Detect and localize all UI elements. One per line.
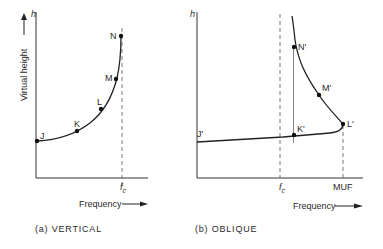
y-axis-label: Virtual height <box>19 49 29 101</box>
y-axis-symbol: h <box>31 10 36 19</box>
label-n: N <box>110 32 117 41</box>
caption-oblique: (b) OBLIQUE <box>195 224 257 234</box>
fc-label: fc <box>120 183 126 194</box>
x-axis-label: Frequency <box>79 200 122 209</box>
x-axis-label: Frequency <box>293 202 336 211</box>
point-n <box>119 34 123 38</box>
caption-vertical: (a) VERTICAL <box>35 224 102 234</box>
label-m-prime: M' <box>322 84 331 93</box>
point-l-prime <box>341 122 345 126</box>
fc-label: fc <box>279 183 285 194</box>
point-n-prime <box>292 45 296 49</box>
label-l-prime: L' <box>347 120 354 129</box>
label-k: K <box>74 120 80 129</box>
x-arrow-head-icon <box>140 202 148 207</box>
x-arrow-head-icon <box>354 204 363 209</box>
point-m <box>114 77 118 81</box>
label-k-prime: K' <box>297 125 305 134</box>
y-arrow-head-icon <box>21 13 27 20</box>
point-j <box>35 139 39 143</box>
y-axis-symbol: h <box>190 10 195 19</box>
label-m: M <box>105 74 113 83</box>
label-l: L <box>97 98 102 107</box>
point-k <box>75 129 79 133</box>
panel-vertical <box>21 12 148 207</box>
muf-label: MUF <box>333 183 353 192</box>
oblique-curve <box>197 16 343 142</box>
panel-oblique <box>197 12 363 209</box>
label-n-prime: N' <box>298 43 306 52</box>
diagram-canvas <box>0 0 383 249</box>
point-k-prime <box>292 133 296 137</box>
label-j: J <box>40 132 45 141</box>
point-l <box>99 107 103 111</box>
point-m-prime <box>317 93 321 97</box>
label-j-prime: J' <box>197 130 203 139</box>
